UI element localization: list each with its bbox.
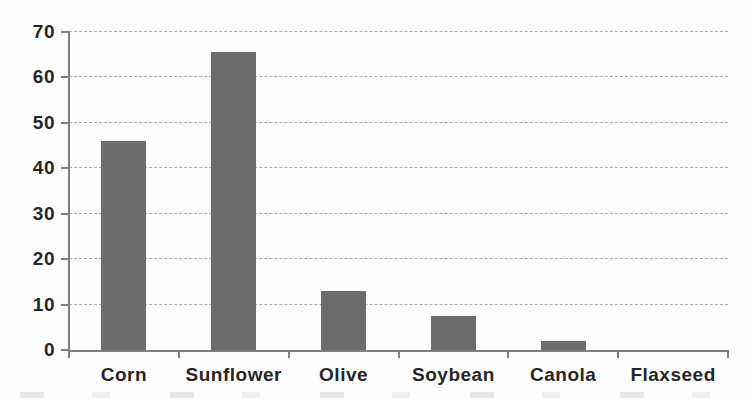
y-tick-label-0: 0	[0, 338, 55, 362]
scan-artifact-smudge	[20, 392, 731, 398]
x-axis-tick-0	[68, 350, 70, 358]
x-axis-tick-3	[398, 350, 400, 358]
bar-soybean	[431, 316, 476, 350]
y-tick-label-60: 60	[0, 65, 55, 89]
y-tick-label-50: 50	[0, 111, 55, 135]
bar-corn	[101, 141, 146, 350]
gridline-20	[69, 258, 728, 259]
x-axis-tick-1	[178, 350, 180, 358]
scanned-bar-chart-figure: 010203040506070CornSunflowerOliveSoybean…	[0, 0, 751, 403]
y-tick-label-40: 40	[0, 156, 55, 180]
bar-canola	[541, 341, 586, 350]
x-category-label-flaxseed: Flaxseed	[618, 363, 728, 387]
x-category-label-olive: Olive	[289, 363, 399, 387]
x-category-label-canola: Canola	[508, 363, 618, 387]
y-tick-label-20: 20	[0, 247, 55, 271]
gridline-30	[69, 213, 728, 214]
x-axis-tick-5	[617, 350, 619, 358]
gridline-40	[69, 167, 728, 168]
gridline-10	[69, 304, 728, 305]
x-axis-tick-2	[288, 350, 290, 358]
y-tick-label-10: 10	[0, 293, 55, 317]
y-tick-label-70: 70	[0, 20, 55, 44]
y-tick-label-30: 30	[0, 202, 55, 226]
x-axis-tick-4	[507, 350, 509, 358]
gridline-50	[69, 122, 728, 123]
y-axis-line	[68, 31, 70, 358]
x-category-label-corn: Corn	[69, 363, 179, 387]
x-category-label-sunflower: Sunflower	[179, 363, 289, 387]
bar-sunflower	[211, 52, 256, 350]
gridline-60	[69, 76, 728, 77]
x-category-label-soybean: Soybean	[398, 363, 508, 387]
bar-olive	[321, 291, 366, 350]
x-axis-tick-6	[727, 350, 729, 358]
gridline-70	[69, 31, 728, 32]
